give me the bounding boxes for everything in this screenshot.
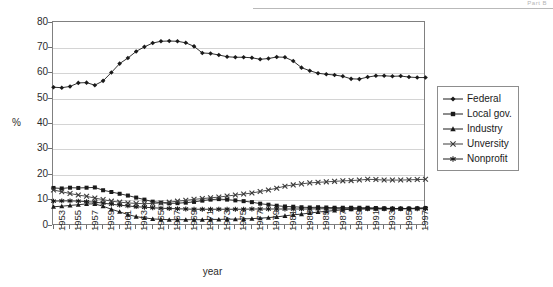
series-federal <box>51 39 428 90</box>
plot-area <box>52 21 425 225</box>
x-tick-mark <box>301 225 302 229</box>
legend-item-federal[interactable]: Federal <box>442 91 512 106</box>
x-tick-mark <box>193 225 194 229</box>
legend-label: Nonprofit <box>464 154 508 164</box>
x-tick-mark <box>234 225 235 229</box>
x-tick-mark <box>350 225 351 229</box>
legend-marker-triangle-icon <box>442 123 464 135</box>
x-tick-mark <box>259 225 260 229</box>
x-tick-mark <box>53 225 54 229</box>
x-tick-mark <box>267 225 268 229</box>
x-tick-mark <box>110 225 111 229</box>
legend-marker-square-icon <box>442 108 464 120</box>
x-tick-mark <box>425 225 426 229</box>
x-axis-title: year <box>0 266 425 277</box>
x-tick-mark <box>325 225 326 229</box>
x-tick-mark <box>160 225 161 229</box>
x-tick-mark <box>201 225 202 229</box>
x-tick-mark <box>358 225 359 229</box>
x-tick-mark <box>391 225 392 229</box>
legend-item-nonprofit[interactable]: Nonprofit <box>442 151 512 166</box>
y-tick-label: 60 <box>22 67 48 77</box>
y-tick-label: 20 <box>22 169 48 179</box>
x-tick-mark <box>185 225 186 229</box>
x-tick-mark <box>210 225 211 229</box>
legend-marker-diamond-icon <box>442 93 464 105</box>
x-tick-mark <box>94 225 95 229</box>
y-tick-label: 0 <box>22 220 48 230</box>
legend-item-unversity[interactable]: Unversity <box>442 136 512 151</box>
y-tick-label: 50 <box>22 93 48 103</box>
x-tick-mark <box>292 225 293 229</box>
x-tick-mark <box>218 225 219 229</box>
x-tick-mark <box>177 225 178 229</box>
legend-label: Local gov. <box>464 109 512 119</box>
x-tick-mark <box>416 225 417 229</box>
x-tick-mark <box>135 225 136 229</box>
y-tick-mark <box>48 225 52 226</box>
chart-legend[interactable]: FederalLocal gov.IndustryUnversityNonpro… <box>437 86 519 171</box>
x-tick-mark <box>143 225 144 229</box>
y-axis-title: % <box>12 117 21 128</box>
legend-marker-star-icon <box>442 153 464 165</box>
page-root: Part B % 01020304050607080 1953195519571… <box>0 0 553 287</box>
x-tick-mark <box>127 225 128 229</box>
x-tick-mark <box>86 225 87 229</box>
x-tick-mark <box>77 225 78 229</box>
x-tick-mark <box>226 225 227 229</box>
x-tick-mark <box>309 225 310 229</box>
x-tick-mark <box>408 225 409 229</box>
x-tick-mark <box>317 225 318 229</box>
legend-label: Industry <box>464 124 503 134</box>
legend-item-industry[interactable]: Industry <box>442 121 512 136</box>
y-tick-label: 80 <box>22 17 48 27</box>
x-tick-mark <box>383 225 384 229</box>
y-tick-label: 70 <box>22 42 48 52</box>
x-tick-mark <box>284 225 285 229</box>
x-tick-mark <box>152 225 153 229</box>
y-tick-label: 10 <box>22 194 48 204</box>
x-tick-mark <box>243 225 244 229</box>
x-tick-mark <box>276 225 277 229</box>
x-tick-mark <box>342 225 343 229</box>
series-lines <box>53 22 426 226</box>
legend-marker-x-icon <box>442 138 464 150</box>
x-tick-mark <box>61 225 62 229</box>
x-tick-mark <box>400 225 401 229</box>
x-tick-mark <box>69 225 70 229</box>
y-tick-label: 40 <box>22 118 48 128</box>
series-local-gov <box>52 185 428 210</box>
line-chart: % 01020304050607080 19531955195719591961… <box>0 0 553 287</box>
y-tick-label: 30 <box>22 143 48 153</box>
legend-label: Federal <box>464 94 501 104</box>
x-tick-mark <box>102 225 103 229</box>
x-tick-mark <box>168 225 169 229</box>
x-tick-mark <box>251 225 252 229</box>
x-tick-mark <box>367 225 368 229</box>
legend-item-local-gov[interactable]: Local gov. <box>442 106 512 121</box>
x-tick-mark <box>334 225 335 229</box>
legend-label: Unversity <box>464 139 509 149</box>
x-tick-mark <box>119 225 120 229</box>
x-tick-mark <box>375 225 376 229</box>
